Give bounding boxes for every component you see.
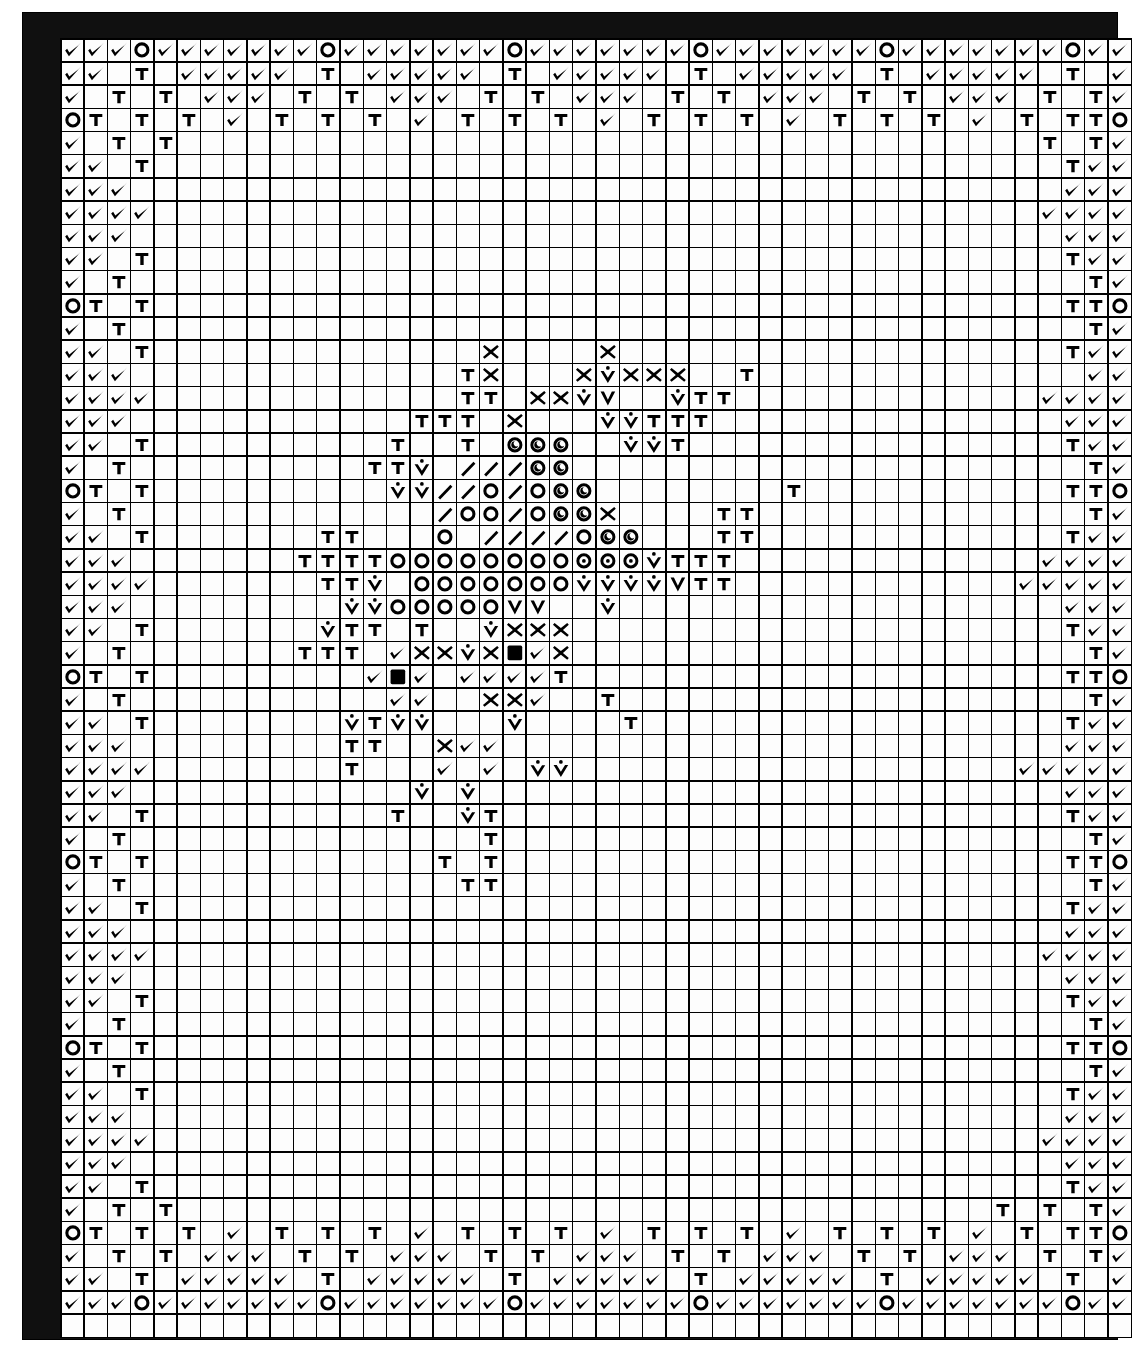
- stitch-cell[interactable]: [736, 666, 758, 688]
- stitch-cell[interactable]: [829, 921, 851, 943]
- stitch-cell[interactable]: [853, 1013, 875, 1035]
- stitch-cell[interactable]: [620, 295, 642, 317]
- stitch-cell[interactable]: [108, 109, 130, 131]
- stitch-cell[interactable]: [1085, 1199, 1107, 1221]
- stitch-cell[interactable]: [1085, 1013, 1107, 1035]
- stitch-cell[interactable]: [620, 550, 642, 572]
- stitch-cell[interactable]: [736, 318, 758, 340]
- stitch-cell[interactable]: [248, 1106, 270, 1128]
- stitch-cell[interactable]: [527, 63, 549, 85]
- stitch-cell[interactable]: [829, 295, 851, 317]
- stitch-cell[interactable]: [317, 689, 339, 711]
- stitch-cell[interactable]: [946, 689, 968, 711]
- stitch-cell[interactable]: [1109, 1083, 1131, 1105]
- stitch-cell[interactable]: [853, 921, 875, 943]
- stitch-cell[interactable]: [411, 1199, 433, 1221]
- stitch-cell[interactable]: [829, 434, 851, 456]
- stitch-cell[interactable]: [1062, 851, 1084, 873]
- stitch-cell[interactable]: [294, 782, 316, 804]
- stitch-cell[interactable]: [1062, 1268, 1084, 1290]
- stitch-cell[interactable]: [317, 596, 339, 618]
- stitch-cell[interactable]: [480, 1199, 502, 1221]
- stitch-cell[interactable]: [946, 155, 968, 177]
- stitch-cell[interactable]: [457, 1199, 479, 1221]
- stitch-cell[interactable]: [713, 921, 735, 943]
- stitch-cell[interactable]: [364, 341, 386, 363]
- stitch-cell[interactable]: [248, 318, 270, 340]
- stitch-cell[interactable]: [457, 689, 479, 711]
- stitch-cell[interactable]: [1062, 1037, 1084, 1059]
- stitch-cell[interactable]: [620, 202, 642, 224]
- stitch-cell[interactable]: [271, 619, 293, 641]
- stitch-cell[interactable]: [131, 318, 153, 340]
- stitch-cell[interactable]: [713, 782, 735, 804]
- stitch-cell[interactable]: [1062, 1129, 1084, 1151]
- stitch-cell[interactable]: [853, 387, 875, 409]
- stitch-cell[interactable]: [341, 1106, 363, 1128]
- stitch-cell[interactable]: [969, 897, 991, 919]
- stitch-cell[interactable]: [923, 1037, 945, 1059]
- stitch-cell[interactable]: [271, 921, 293, 943]
- stitch-cell[interactable]: [155, 1129, 177, 1151]
- stitch-cell[interactable]: [992, 735, 1014, 757]
- stitch-cell[interactable]: [1062, 758, 1084, 780]
- stitch-cell[interactable]: [1085, 457, 1107, 479]
- stitch-cell[interactable]: [760, 1083, 782, 1105]
- stitch-cell[interactable]: [969, 1153, 991, 1175]
- stitch-cell[interactable]: [760, 550, 782, 572]
- stitch-cell[interactable]: [876, 689, 898, 711]
- stitch-cell[interactable]: [85, 712, 107, 734]
- stitch-cell[interactable]: [690, 1060, 712, 1082]
- stitch-cell[interactable]: [969, 40, 991, 62]
- stitch-cell[interactable]: [248, 944, 270, 966]
- stitch-cell[interactable]: [85, 364, 107, 386]
- stitch-cell[interactable]: [504, 318, 526, 340]
- stitch-cell[interactable]: [946, 387, 968, 409]
- stitch-cell[interactable]: [1016, 202, 1038, 224]
- stitch-cell[interactable]: [597, 1268, 619, 1290]
- stitch-cell[interactable]: [411, 295, 433, 317]
- stitch-cell[interactable]: [829, 1222, 851, 1244]
- stitch-cell[interactable]: [1016, 225, 1038, 247]
- stitch-cell[interactable]: [341, 295, 363, 317]
- stitch-cell[interactable]: [876, 596, 898, 618]
- stitch-cell[interactable]: [1085, 990, 1107, 1012]
- stitch-cell[interactable]: [876, 1106, 898, 1128]
- stitch-cell[interactable]: [178, 944, 200, 966]
- stitch-cell[interactable]: [317, 202, 339, 224]
- stitch-cell[interactable]: [806, 132, 828, 154]
- stitch-cell[interactable]: [504, 40, 526, 62]
- stitch-cell[interactable]: [387, 619, 409, 641]
- stitch-cell[interactable]: [1085, 341, 1107, 363]
- stitch-cell[interactable]: [434, 1106, 456, 1128]
- stitch-cell[interactable]: [573, 1037, 595, 1059]
- stitch-cell[interactable]: [713, 689, 735, 711]
- stitch-cell[interactable]: [1016, 271, 1038, 293]
- stitch-cell[interactable]: [62, 967, 84, 989]
- stitch-cell[interactable]: [597, 666, 619, 688]
- stitch-cell[interactable]: [992, 480, 1014, 502]
- stitch-cell[interactable]: [178, 411, 200, 433]
- stitch-cell[interactable]: [131, 1153, 153, 1175]
- stitch-cell[interactable]: [899, 1315, 921, 1337]
- stitch-cell[interactable]: [457, 550, 479, 572]
- stitch-cell[interactable]: [294, 109, 316, 131]
- stitch-cell[interactable]: [783, 434, 805, 456]
- stitch-cell[interactable]: [1109, 573, 1131, 595]
- stitch-cell[interactable]: [1085, 1315, 1107, 1337]
- stitch-cell[interactable]: [364, 271, 386, 293]
- stitch-cell[interactable]: [527, 1268, 549, 1290]
- stitch-cell[interactable]: [341, 550, 363, 572]
- stitch-cell[interactable]: [969, 1268, 991, 1290]
- stitch-cell[interactable]: [736, 457, 758, 479]
- stitch-cell[interactable]: [992, 526, 1014, 548]
- stitch-cell[interactable]: [620, 1292, 642, 1314]
- stitch-cell[interactable]: [969, 990, 991, 1012]
- stitch-cell[interactable]: [946, 341, 968, 363]
- stitch-cell[interactable]: [178, 1129, 200, 1151]
- stitch-cell[interactable]: [643, 1245, 665, 1267]
- stitch-cell[interactable]: [597, 411, 619, 433]
- stitch-cell[interactable]: [736, 851, 758, 873]
- stitch-cell[interactable]: [131, 897, 153, 919]
- stitch-cell[interactable]: [131, 851, 153, 873]
